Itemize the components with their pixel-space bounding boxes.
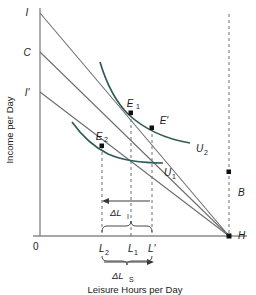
label-origin: 0	[33, 241, 39, 252]
label-u2: U 2	[196, 143, 208, 156]
label-h: H	[238, 230, 246, 241]
label-u2-subscript: 2	[204, 149, 208, 156]
label-intercept-c: C	[23, 47, 31, 58]
label-u1-subscript: 1	[172, 173, 176, 180]
label-intercept-i-prime: I'	[25, 87, 31, 98]
point-marker-e1	[129, 111, 134, 116]
label-e1-subscript: 1	[136, 103, 140, 110]
economics-labor-supply-diagram: I C I' E 1 E' E 2 U 2 U 1 B H	[0, 0, 256, 295]
label-delta-income-text: ΔL	[109, 207, 122, 218]
label-b: B	[238, 187, 245, 198]
income-effect-arrow	[102, 198, 150, 204]
label-l2-subscript: 2	[105, 249, 109, 256]
point-marker-b	[227, 170, 232, 175]
label-delta-income: ΔL I	[109, 207, 129, 220]
y-axis-title: Income per Day	[4, 96, 15, 163]
label-e2-subscript: 2	[104, 136, 108, 143]
label-e2-text: E	[96, 131, 103, 142]
point-marker-e2	[100, 144, 105, 149]
label-delta-income-subscript: I	[127, 213, 129, 220]
label-delta-substitution: ΔL S	[111, 270, 134, 283]
label-delta-substitution-subscript: S	[129, 276, 134, 283]
label-e1-text: E	[127, 98, 134, 109]
label-u2-text: U	[196, 143, 204, 154]
point-marker-h	[227, 234, 232, 239]
brace-substitution-effect	[102, 256, 152, 265]
label-e-prime: E'	[160, 115, 170, 126]
label-l2-text: L	[99, 243, 105, 254]
arrow-head-left	[102, 198, 109, 204]
indifference-curve-u2	[100, 62, 190, 143]
label-l-prime: L'	[148, 243, 157, 254]
diagram-svg: I C I' E 1 E' E 2 U 2 U 1 B H	[0, 0, 256, 295]
label-intercept-i: I	[26, 7, 29, 18]
budget-line-new-wage	[40, 92, 229, 236]
point-marker-eprime	[150, 126, 155, 131]
label-l1-text: L	[128, 243, 134, 254]
label-l2: L 2	[99, 243, 109, 256]
x-axis-title: Leisure Hours per Day	[87, 284, 182, 295]
label-l1-subscript: 1	[134, 249, 138, 256]
label-delta-substitution-text: ΔL	[111, 270, 124, 281]
budget-line-original	[40, 13, 229, 236]
label-u1-text: U	[164, 167, 172, 178]
brace-income-effect	[102, 221, 152, 232]
label-e2: E 2	[96, 131, 108, 143]
label-e1: E 1	[127, 98, 140, 110]
label-l1: L 1	[128, 243, 138, 256]
